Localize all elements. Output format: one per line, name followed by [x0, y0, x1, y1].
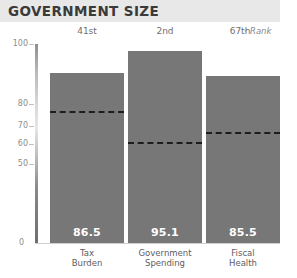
- category-label-line: Health: [206, 258, 280, 268]
- category-label-line: Government: [128, 248, 202, 258]
- x-axis-baseline: [35, 243, 280, 244]
- category-label-fiscal-health: Fiscal Health: [206, 248, 280, 268]
- y-tick-label: 0: [19, 238, 24, 247]
- y-tickmark: [29, 44, 34, 45]
- category-label-tax-burden: Tax Burden: [50, 248, 124, 268]
- category-label-government-spending: Government Spending: [128, 248, 202, 268]
- y-tick-label: 70: [18, 121, 28, 130]
- y-tick-label: 60: [18, 139, 28, 148]
- y-tick-label: 100: [13, 39, 28, 48]
- bar-value-label: 95.1: [128, 226, 202, 239]
- bar-value-label: 85.5: [206, 226, 280, 239]
- rank-tax-burden: 41st: [47, 26, 127, 36]
- y-tickmark: [29, 164, 34, 165]
- category-label-line: Burden: [50, 258, 124, 268]
- category-label-line: Spending: [128, 258, 202, 268]
- bar-tax-burden: 86.5: [50, 73, 124, 243]
- y-tickmark: [29, 104, 34, 105]
- reference-line-fiscal-health: [206, 132, 280, 134]
- rank-fiscal-health: 67th: [200, 26, 280, 36]
- reference-line-tax-burden: [50, 111, 124, 113]
- bar-chart: ‹ Rank 100 80 70 60 50 0 41st 2nd 67th 8…: [0, 22, 297, 278]
- bar-fiscal-health: 85.5: [206, 76, 280, 243]
- y-tick-label: 80: [18, 99, 28, 108]
- category-label-line: Fiscal: [206, 248, 280, 258]
- reference-line-government-spending: [128, 142, 202, 144]
- page-title: GOVERNMENT SIZE: [8, 3, 159, 19]
- y-tick-label: 50: [18, 159, 28, 168]
- y-axis-spine: [35, 44, 38, 244]
- category-label-line: Tax: [50, 248, 124, 258]
- y-tickmark: [29, 144, 34, 145]
- rank-government-spending: 2nd: [125, 26, 205, 36]
- bar-value-label: 86.5: [50, 226, 124, 239]
- bar-government-spending: 95.1: [128, 51, 202, 243]
- y-tickmark: [29, 126, 34, 127]
